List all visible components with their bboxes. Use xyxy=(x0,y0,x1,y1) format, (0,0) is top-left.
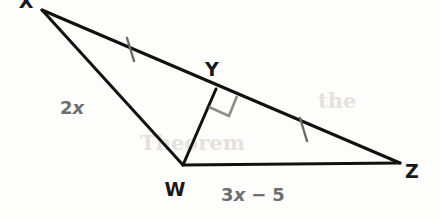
side-label-wz: 3x−5 xyxy=(221,184,285,205)
geometry-canvas: Theorem the X Y W Z xyxy=(0,0,439,219)
side-label-wz-constant: 5 xyxy=(272,184,285,205)
vertex-label-y: Y xyxy=(204,58,219,80)
side-label-wz-variable: x xyxy=(233,184,247,205)
segment-xw xyxy=(42,10,183,165)
vertex-label-w: W xyxy=(165,178,186,200)
side-label-xw: 2x xyxy=(60,97,86,118)
geometry-figure: Theorem the X Y W Z xyxy=(0,0,439,219)
segment-wz xyxy=(183,163,400,165)
side-label-wz-operator: − xyxy=(251,184,266,205)
side-label-xw-coefficient: 2 xyxy=(60,97,73,118)
side-label-xw-variable: x xyxy=(71,97,85,118)
side-label-wz-coefficient: 3 xyxy=(221,184,234,205)
ghost-text-2: the xyxy=(318,88,356,113)
vertex-label-z: Z xyxy=(405,160,419,182)
vertex-label-x: X xyxy=(19,0,34,12)
